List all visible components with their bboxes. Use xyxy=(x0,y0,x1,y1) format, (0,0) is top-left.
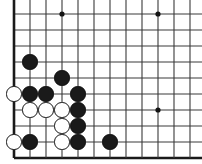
star-point-top-left xyxy=(59,11,64,16)
stone-white-b7[interactable] xyxy=(22,102,37,117)
star-point-center-right xyxy=(155,107,160,112)
stone-white-d9[interactable] xyxy=(54,134,69,149)
star-point-top-right xyxy=(155,11,160,16)
stone-white-d8[interactable] xyxy=(54,118,69,133)
stone-black-g9[interactable] xyxy=(102,134,117,149)
stone-black-e7[interactable] xyxy=(70,102,85,117)
stone-black-e6[interactable] xyxy=(70,86,85,101)
go-board-diagram xyxy=(0,0,202,164)
stone-white-d7[interactable] xyxy=(54,102,69,117)
stone-black-b6[interactable] xyxy=(22,86,37,101)
stone-black-e8[interactable] xyxy=(70,118,85,133)
stone-black-e9[interactable] xyxy=(70,134,85,149)
stone-black-d5[interactable] xyxy=(54,70,69,85)
stone-white-a6[interactable] xyxy=(6,86,21,101)
stone-black-c6[interactable] xyxy=(38,86,53,101)
stone-white-a9[interactable] xyxy=(6,134,21,149)
stone-black-b9[interactable] xyxy=(22,134,37,149)
stone-black-b4[interactable] xyxy=(22,54,37,69)
stone-white-c7[interactable] xyxy=(38,102,53,117)
